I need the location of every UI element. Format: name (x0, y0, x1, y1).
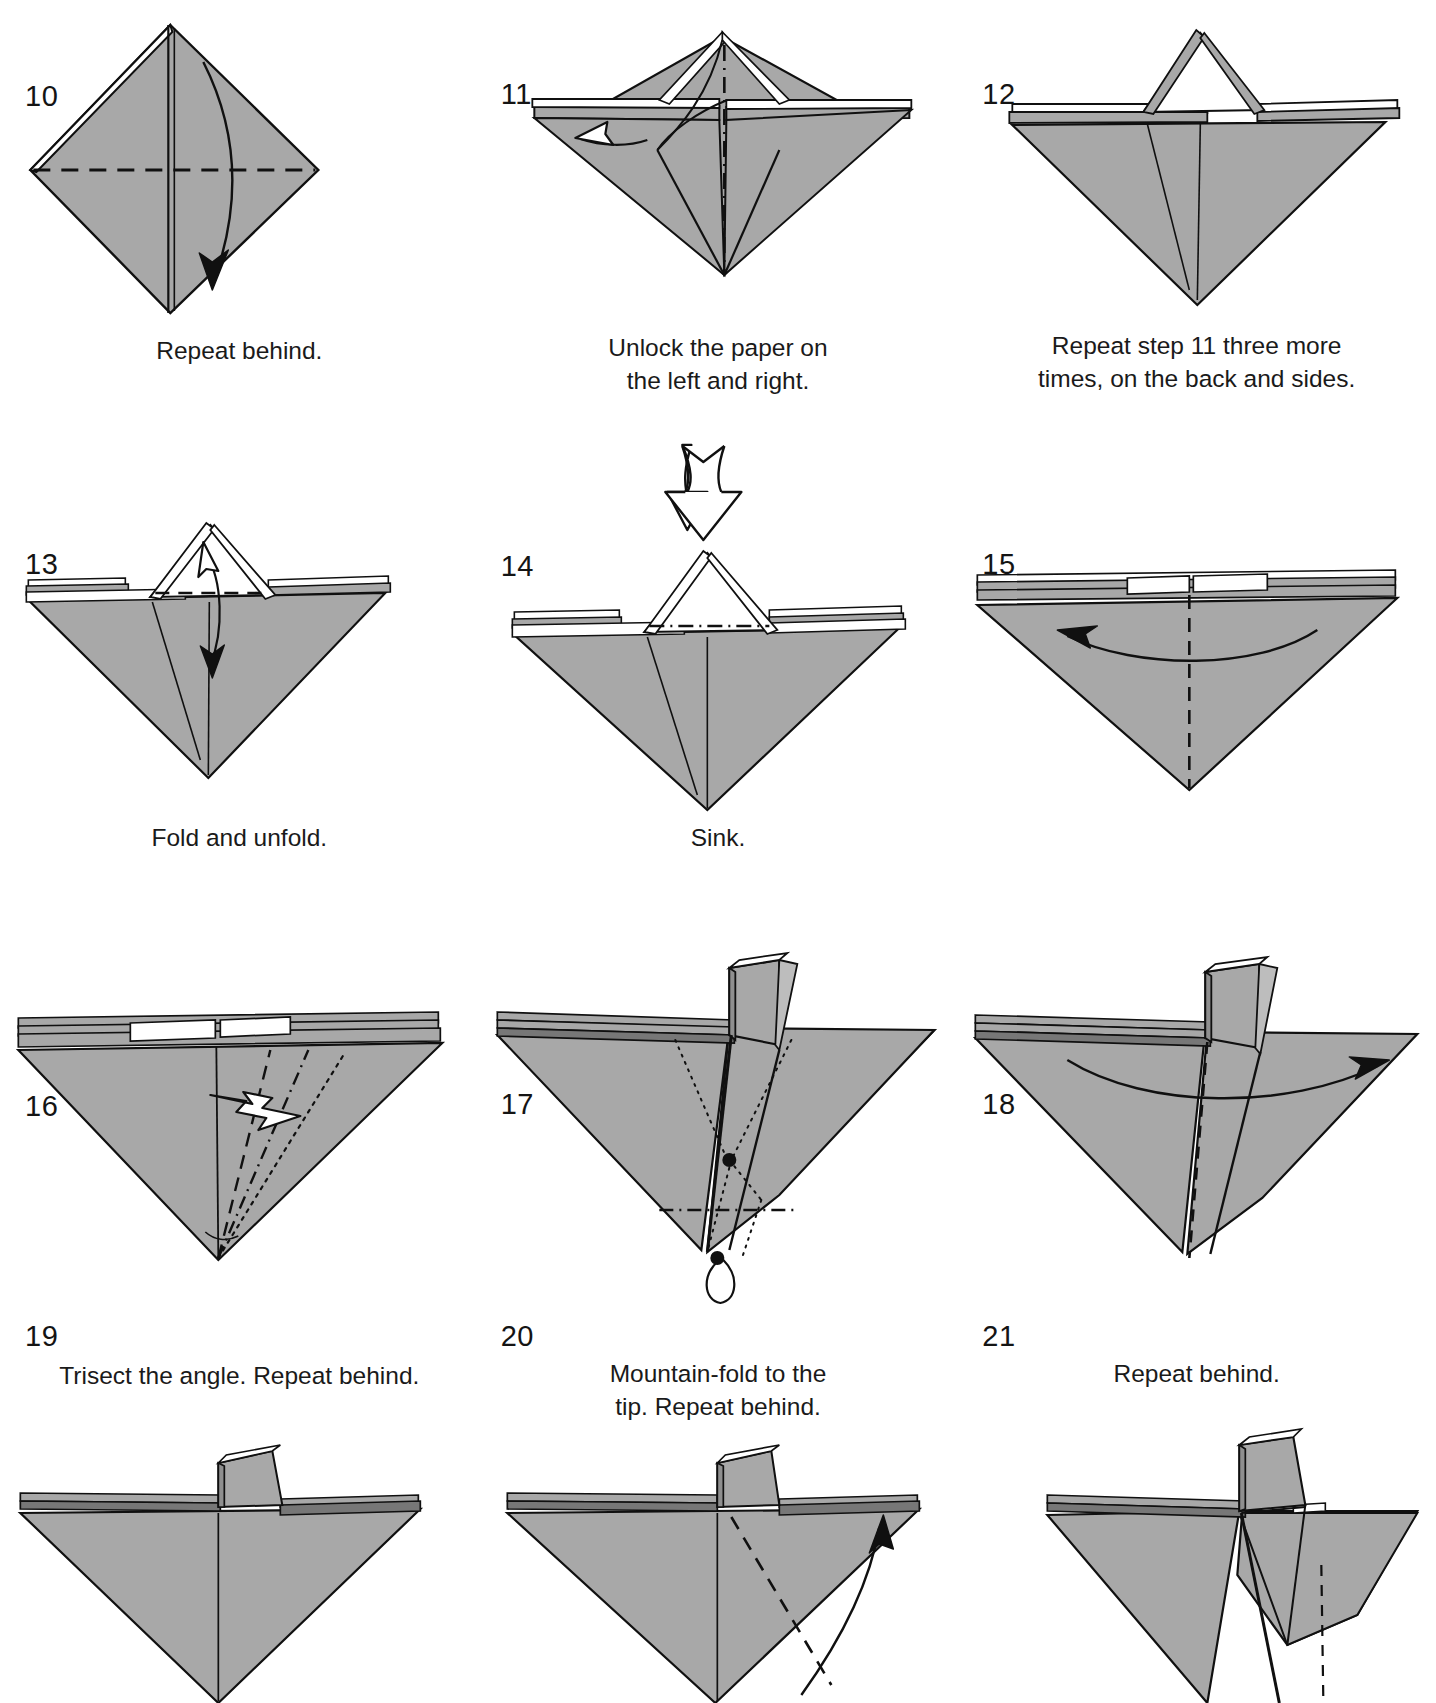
diagram-21 (957, 1315, 1436, 1703)
step-caption-13: Fold and unfold. (0, 822, 479, 855)
step-panel-15: 15 (957, 430, 1436, 860)
diagram-14 (479, 430, 958, 860)
origami-instruction-page: 10 Repeat behind. 11 (0, 0, 1436, 1703)
diagram-15 (957, 430, 1436, 860)
step-caption-12: Repeat step 11 three more times, on the … (957, 330, 1436, 396)
step-caption-11: Unlock the paper on the left and right. (479, 332, 958, 398)
diagram-19 (0, 1315, 479, 1703)
step-panel-11: 11 (479, 0, 958, 430)
step-panel-17: 17 (479, 860, 958, 1315)
diagram-16 (0, 860, 479, 1315)
diagram-20 (479, 1315, 958, 1703)
reference-dot (722, 1153, 736, 1167)
step-panel-20: 20 (479, 1315, 958, 1703)
step-caption-10: Repeat behind. (0, 335, 479, 368)
step-panel-10: 10 Repeat behind. (0, 0, 479, 430)
step-panel-14: 14 (479, 430, 958, 860)
diagram-17 (479, 860, 958, 1315)
step-caption-14: Sink. (479, 822, 958, 855)
step-panel-19: 19 (0, 1315, 479, 1703)
diagram-13 (0, 430, 479, 860)
steps-grid: 10 Repeat behind. 11 (0, 0, 1436, 1703)
step-panel-18: 18 (957, 860, 1436, 1315)
step-panel-12: 12 Repeat step 11 three more times, o (957, 0, 1436, 430)
diagram-18 (957, 860, 1436, 1315)
step-panel-16: 16 (0, 860, 479, 1315)
step-panel-21: 21 (957, 1315, 1436, 1703)
step-panel-13: 13 (0, 430, 479, 860)
